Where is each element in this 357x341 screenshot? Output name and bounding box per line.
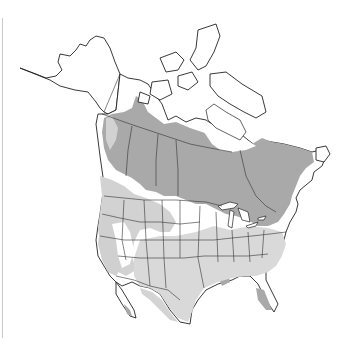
ellesmere-island <box>190 24 220 70</box>
map-canvas <box>0 0 357 341</box>
newfoundland <box>316 146 330 162</box>
range-map <box>0 0 357 341</box>
baja-california <box>116 282 136 318</box>
alaska <box>20 36 120 114</box>
arctic-island-2 <box>178 72 198 90</box>
arctic-island-1 <box>160 52 184 72</box>
